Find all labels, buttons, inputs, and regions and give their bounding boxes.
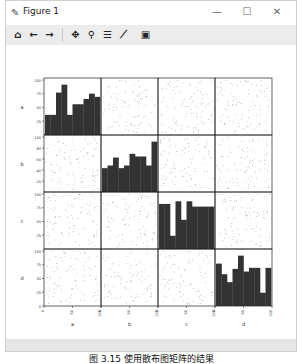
edit-axes-icon[interactable]: ⟋ xyxy=(117,28,130,41)
minimize-button[interactable]: — xyxy=(206,4,228,20)
scatter-point xyxy=(224,229,225,230)
scatter-point xyxy=(93,180,94,181)
save-icon[interactable]: ▣ xyxy=(139,28,152,41)
scatter-point xyxy=(164,151,165,152)
scatter-point xyxy=(81,178,82,179)
scatter-point xyxy=(236,178,237,179)
scatter-point xyxy=(170,257,171,258)
y-tick-label: 80 xyxy=(37,147,41,151)
scatter-point xyxy=(224,199,225,200)
scatter-point xyxy=(195,106,196,107)
scatter-point xyxy=(51,171,52,172)
scatter-point xyxy=(188,106,189,107)
scatter-point xyxy=(264,84,265,85)
scatter-point xyxy=(231,245,232,246)
scatter-point xyxy=(107,296,108,297)
scatter-point xyxy=(169,82,170,83)
scatter-point xyxy=(112,264,113,265)
pan-icon[interactable]: ✥ xyxy=(69,28,82,41)
scatter-point xyxy=(97,256,98,257)
scatter-point xyxy=(173,166,174,167)
scatter-point xyxy=(178,267,179,268)
title-bar[interactable]: ✎ Figure 1 — ☐ ✕ xyxy=(6,1,296,25)
scatter-point xyxy=(109,108,110,109)
scatter-point xyxy=(191,96,192,97)
scatter-point xyxy=(236,200,237,201)
scatter-point xyxy=(189,303,190,304)
back-icon[interactable]: ← xyxy=(27,28,40,41)
close-button[interactable]: ✕ xyxy=(266,4,288,20)
scatter-point xyxy=(245,81,246,82)
scatter-point xyxy=(211,122,212,123)
scatter-point xyxy=(190,98,191,99)
scatter-point xyxy=(62,234,63,235)
zoom-icon[interactable]: ⚲ xyxy=(85,28,98,41)
scatter-point xyxy=(252,199,253,200)
y-tick-label: 100 xyxy=(34,79,41,83)
scatter-point xyxy=(126,107,127,108)
scatter-point xyxy=(175,93,176,94)
scatter-point xyxy=(125,91,126,92)
scatter-point xyxy=(128,105,129,106)
scatter-point xyxy=(172,90,173,91)
scatter-point xyxy=(66,270,67,271)
scatter-point xyxy=(84,228,85,229)
configure-subplots-icon[interactable]: ☰ xyxy=(101,28,114,41)
scatter-point xyxy=(181,129,182,130)
scatter-point xyxy=(114,93,115,94)
scatter-point xyxy=(247,147,248,148)
scatter-point xyxy=(148,213,149,214)
scatter-point xyxy=(47,148,48,149)
scatter-point xyxy=(95,175,96,176)
maximize-button[interactable]: ☐ xyxy=(236,4,258,20)
histogram-bar xyxy=(165,204,171,249)
histogram-bar xyxy=(187,201,193,249)
scatter-point xyxy=(46,282,47,283)
scatter-point xyxy=(190,159,191,160)
scatter-point xyxy=(146,89,147,90)
scatter-point xyxy=(155,224,156,225)
scatter-point xyxy=(95,301,96,302)
scatter-point xyxy=(133,275,134,276)
scatter-point xyxy=(59,178,60,179)
scatter-point xyxy=(244,129,245,130)
scatter-point xyxy=(248,81,249,82)
scatter-point xyxy=(103,258,104,259)
scatter-point xyxy=(247,156,248,157)
scatter-point xyxy=(96,233,97,234)
figure-canvas[interactable]: a255075100b20406080100c255075100d0255075… xyxy=(6,45,296,341)
scatter-point xyxy=(210,254,211,255)
scatter-point xyxy=(200,295,201,296)
scatter-point xyxy=(154,233,155,234)
scatter-point xyxy=(122,234,123,235)
scatter-point xyxy=(226,182,227,183)
scatter-point xyxy=(263,217,264,218)
scatter-point xyxy=(257,213,258,214)
scatter-point xyxy=(264,91,265,92)
forward-icon[interactable]: → xyxy=(43,28,56,41)
scatter-point xyxy=(257,96,258,97)
y-tick-label: 50 xyxy=(37,106,41,110)
scatter-point xyxy=(107,292,108,293)
histogram-bar xyxy=(73,104,79,135)
scatter-point xyxy=(259,214,260,215)
scatter-point xyxy=(198,144,199,145)
scatter-point xyxy=(241,170,242,171)
scatter-point xyxy=(162,88,163,89)
scatter-point xyxy=(153,232,154,233)
scatter-point xyxy=(168,283,169,284)
scatter-point xyxy=(139,101,140,102)
scatter-point xyxy=(164,288,165,289)
scatter-point xyxy=(118,122,119,123)
scatter-point xyxy=(84,156,85,157)
scatter-point xyxy=(93,189,94,190)
scatter-point xyxy=(89,268,90,269)
scatter-point xyxy=(234,96,235,97)
scatter-point xyxy=(257,126,258,127)
scatter-point xyxy=(125,263,126,264)
scatter-point xyxy=(92,242,93,243)
scatter-point xyxy=(55,195,56,196)
scatter-point xyxy=(265,160,266,161)
home-icon[interactable]: ⌂ xyxy=(11,28,24,41)
scatter-point xyxy=(210,158,211,159)
